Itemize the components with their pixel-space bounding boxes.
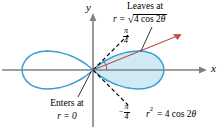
angle-label-pi-over-4: π 4 [123,27,129,45]
angle-label-negative-pi-over-4: − π 4 [119,103,130,121]
radicand-theta: θ [161,14,166,24]
radicand: 4 cos 2θ [133,14,167,25]
fraction-denominator: 4 [124,112,130,121]
leaves-at-label-line1: Leaves at [127,2,163,12]
leaves-at-r: r = [113,14,125,24]
enters-at-label-line1: Enters at [36,99,98,109]
leaves-at-equation: r = √4 cos 2θ [113,14,167,25]
fraction-pi-over-4-negative: π 4 [124,103,130,121]
fraction-pi-over-4: π 4 [123,27,129,45]
fraction-numerator: π [124,103,130,111]
x-axis-label: x [211,63,216,74]
enters-at-label-line2: r = 0 [36,112,98,122]
polar-curve-figure: y x Leaves at r = √4 cos 2θ π 4 − π 4 En… [0,0,224,129]
curve-equation-exponent: 2 [150,105,153,112]
curve-equation-label: r2 = 4 cos 2θ [146,104,196,120]
curve-equation-body: = 4 cos 2 [157,109,192,119]
square-root-icon: √4 cos 2θ [128,14,167,25]
enters-leader-line [78,72,91,97]
x-axis-arrowhead [199,67,207,74]
radicand-coefficient: 4 cos 2 [134,14,161,24]
y-axis-arrowhead [90,13,97,21]
fraction-numerator: π [123,27,129,35]
y-axis-label: y [86,2,91,13]
curve-equation-theta: θ [192,109,197,119]
fraction-denominator: 4 [123,36,129,45]
